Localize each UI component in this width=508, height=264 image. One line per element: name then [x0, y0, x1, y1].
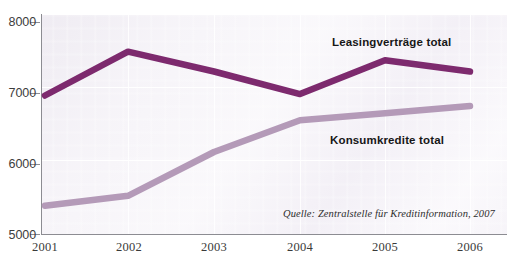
gridline-2006 [470, 14, 471, 234]
x-axis-line [41, 234, 507, 235]
x-axis-label-2006: 2006 [440, 240, 500, 255]
gridline-7000 [41, 87, 507, 88]
gridline-8000 [41, 14, 507, 15]
x-axis-label-2004: 2004 [270, 240, 330, 255]
y-axis-label-6000: 6000 [0, 157, 36, 171]
series-annotation-leasingvertraege: Leasingverträge total [332, 36, 451, 48]
gridline-6000 [41, 160, 507, 161]
x-axis-label-2001: 2001 [15, 240, 75, 255]
series-annotation-konsumkredite: Konsumkredite total [330, 134, 444, 146]
gridline-2004 [300, 14, 301, 234]
y-axis-label-8000: 8000 [0, 15, 36, 29]
x-axis-label-2005: 2005 [355, 240, 415, 255]
gridline-2002 [128, 14, 129, 234]
y-axis-line [41, 14, 42, 235]
line-chart: 8000 7000 6000 5000 2001 2002 2003 2004 … [0, 0, 508, 264]
source-note: Quelle: Zentralstelle für Kreditinformat… [283, 208, 495, 219]
gridline-2003 [214, 14, 215, 234]
x-axis-label-2002: 2002 [99, 240, 159, 255]
x-axis-label-2003: 2003 [184, 240, 244, 255]
y-axis-label-7000: 7000 [0, 86, 36, 100]
